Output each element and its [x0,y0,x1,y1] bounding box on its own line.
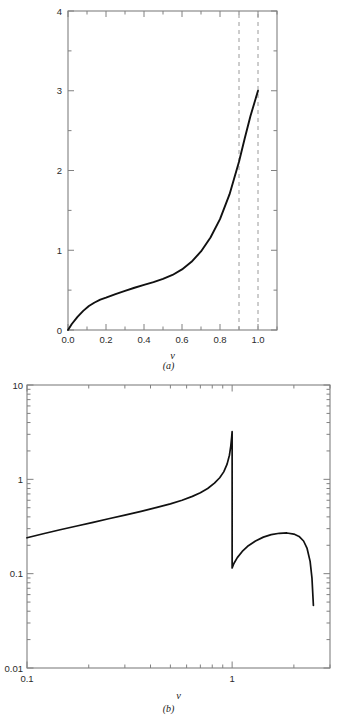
y-tick-label-b: 0.1 [10,568,23,579]
y-tick-label-b: 0.01 [5,663,24,674]
y-tick-label-a: 0 [57,325,62,336]
y-tick-label-a: 3 [57,85,62,96]
x-tick-label-a: 1.0 [251,334,264,345]
y-tick-label-b: 10 [12,380,23,391]
y-tick-label-a: 2 [57,165,62,176]
x-tick-label-a: 0.0 [61,334,74,345]
y-tick-label-a: 4 [57,6,62,17]
chart-panel-b: 0.110.010.1110v [0,375,337,721]
figure-panel-b: 0.110.010.1110v [0,375,337,721]
x-tick-label-a: 0.6 [175,334,188,345]
y-tick-label-b: 1 [18,474,23,485]
caption-panel-b: (b) [0,703,337,714]
x-tick-label-b: 0.1 [20,673,33,684]
data-curve-a [68,91,258,330]
caption-panel-a: (a) [0,360,337,371]
y-tick-label-a: 1 [57,245,62,256]
x-tick-label-a: 0.2 [99,334,112,345]
chart-panel-a: 0.00.20.40.60.81.001234v [0,0,337,360]
x-axis-title-a: v [170,350,175,360]
x-tick-label-a: 0.8 [213,334,226,345]
x-tick-label-b: 1 [229,673,234,684]
plot-frame-a [68,11,277,330]
x-axis-title-b: v [176,690,181,701]
x-tick-label-a: 0.4 [137,334,150,345]
figure-panel-a: 0.00.20.40.60.81.001234v [0,0,337,380]
data-curve-b [27,432,313,606]
